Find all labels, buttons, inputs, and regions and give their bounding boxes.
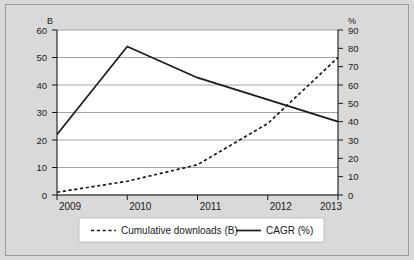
right-tick-label: 70 xyxy=(348,61,359,72)
chart-figure: B % 60 50 40 30 20 10 0 90 80 70 60 50 4… xyxy=(0,0,414,260)
right-tick-label: 50 xyxy=(348,98,359,109)
x-axis-ticks xyxy=(57,195,338,200)
left-axis-ticks xyxy=(52,30,57,195)
left-tick-label: 60 xyxy=(36,25,47,36)
x-tick-label: 2011 xyxy=(200,201,222,212)
right-axis-ticks xyxy=(338,30,343,195)
line-chart: B % 60 50 40 30 20 10 0 90 80 70 60 50 4… xyxy=(0,0,414,260)
x-tick-label: 2013 xyxy=(320,201,343,212)
x-axis-tick-labels: 2009 2010 2011 2012 2013 xyxy=(59,201,343,212)
left-axis-tick-labels: 60 50 40 30 20 10 0 xyxy=(36,25,47,201)
left-tick-label: 30 xyxy=(36,107,47,118)
right-tick-label: 40 xyxy=(348,116,359,127)
left-tick-label: 10 xyxy=(36,162,47,173)
right-tick-label: 90 xyxy=(348,25,359,36)
right-tick-label: 60 xyxy=(348,80,359,91)
left-tick-label: 50 xyxy=(36,52,47,63)
legend-label-cumulative-downloads: Cumulative downloads (B) xyxy=(121,225,238,236)
right-tick-label: 10 xyxy=(348,171,359,182)
right-axis-tick-labels: 90 80 70 60 50 40 30 20 10 0 xyxy=(348,25,359,201)
left-tick-label: 40 xyxy=(36,80,47,91)
right-tick-label: 0 xyxy=(348,190,353,201)
chart-legend: Cumulative downloads (B) CAGR (%) xyxy=(79,218,324,242)
right-tick-label: 80 xyxy=(348,43,359,54)
x-tick-label: 2009 xyxy=(59,201,82,212)
right-tick-label: 30 xyxy=(348,135,359,146)
left-tick-label: 20 xyxy=(36,135,47,146)
right-tick-label: 20 xyxy=(348,153,359,164)
left-tick-label: 0 xyxy=(42,190,47,201)
x-tick-label: 2012 xyxy=(270,201,293,212)
legend-label-cagr: CAGR (%) xyxy=(266,225,313,236)
left-axis-unit: B xyxy=(47,16,53,26)
x-tick-label: 2010 xyxy=(129,201,152,212)
